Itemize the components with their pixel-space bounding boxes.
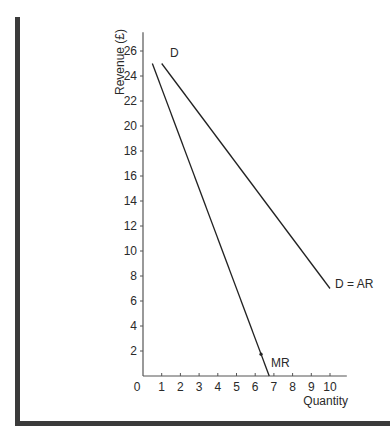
x-tick-label: 1 <box>158 380 165 394</box>
x-tick-label: 8 <box>289 380 296 394</box>
x-tick-label: 7 <box>271 380 278 394</box>
revenue-chart: 012345678910 2468101214161820222426 Reve… <box>0 0 390 442</box>
y-tick-label: 20 <box>124 119 138 133</box>
mr-pointer-dot <box>259 353 262 356</box>
y-tick-label: 22 <box>124 94 138 108</box>
demand-curve <box>162 64 330 289</box>
axes: 012345678910 2468101214161820222426 <box>124 32 347 394</box>
demand-end-label: D = AR <box>335 277 374 291</box>
demand-start-label: D <box>170 46 179 60</box>
x-tick-label: 3 <box>196 380 203 394</box>
y-tick-label: 12 <box>124 219 138 233</box>
y-tick-label: 8 <box>130 269 137 283</box>
y-tick-label: 16 <box>124 169 138 183</box>
y-tick-label: 6 <box>130 294 137 308</box>
y-tick-label: 18 <box>124 144 138 158</box>
mr-label: MR <box>271 356 290 370</box>
x-tick-label: 2 <box>177 380 184 394</box>
y-tick-label: 2 <box>130 344 137 358</box>
y-tick-label: 4 <box>130 319 137 333</box>
x-tick-label: 0 <box>134 380 141 394</box>
x-tick-label: 10 <box>323 380 337 394</box>
marginal-revenue-curve <box>152 64 269 377</box>
y-axis-label: Revenue (£) <box>113 29 127 95</box>
x-axis-label: Quantity <box>303 394 348 408</box>
x-tick-label: 4 <box>214 380 221 394</box>
x-tick-label: 9 <box>308 380 315 394</box>
y-tick-label: 10 <box>124 244 138 258</box>
x-tick-label: 6 <box>252 380 259 394</box>
y-tick-label: 14 <box>124 194 138 208</box>
x-tick-label: 5 <box>233 380 240 394</box>
